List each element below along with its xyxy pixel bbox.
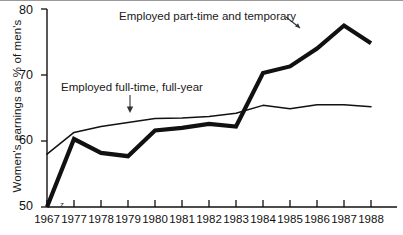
y-axis-label: Women's earnings as % of men's: [11, 6, 23, 206]
z-artifact-mark: z: [60, 200, 64, 209]
x-tick-label-1988: 1988: [354, 213, 388, 225]
top-rule: [0, 0, 403, 1]
y-tick-label-80: 80: [7, 3, 33, 17]
y-tick-marks: [41, 9, 47, 207]
y-tick-label-70: 70: [7, 68, 33, 82]
annotation-arrow-full-time: [127, 95, 133, 113]
series-line-full-time: [47, 105, 371, 155]
y-tick-label-50: 50: [7, 199, 33, 213]
y-tick-label-60: 60: [7, 133, 33, 147]
annotation-part-time-label: Employed part-time and temporary: [119, 10, 296, 22]
x-tick-marks: [47, 200, 371, 207]
chart-figure: Women's earnings as % of men's 80 70 60 …: [0, 0, 403, 235]
annotation-full-time-label: Employed full-time, full-year: [61, 81, 203, 93]
axis-lines: [47, 9, 397, 207]
